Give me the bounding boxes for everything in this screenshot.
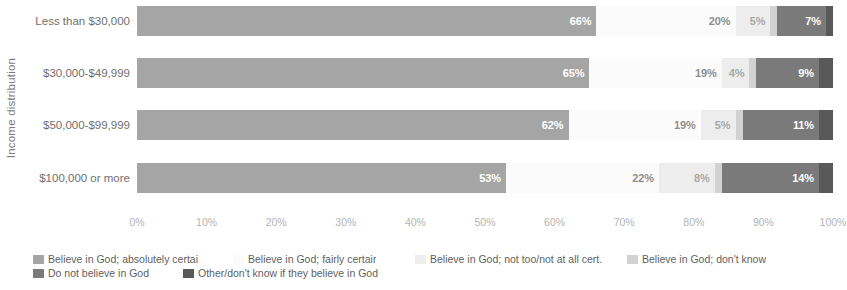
bar-segment-value: 11%: [793, 119, 819, 131]
bar-segment-value: 66%: [570, 15, 597, 27]
bar-segment: 8%: [659, 163, 715, 193]
plot-area: 66%20%5%7%65%19%4%9%62%19%5%11%53%22%8%1…: [137, 0, 833, 210]
legend-swatch-icon: [415, 255, 426, 264]
bar-segment: 53%: [137, 163, 506, 193]
y-axis-tick-labels: Less than $30,000 $30,000-$49,999 $50,00…: [10, 0, 130, 205]
x-axis-tick-label: 90%: [753, 216, 774, 228]
y-axis-tick-label: $30,000-$49,999: [10, 58, 130, 88]
legend-label: Believe in God; don't know: [642, 252, 766, 266]
legend-swatch-icon: [233, 255, 244, 264]
legend-item[interactable]: Believe in God; not too/not at all cert.: [415, 252, 627, 266]
bar-segment: [819, 110, 833, 140]
stacked-bar-chart: Income distribution Less than $30,000 $3…: [0, 0, 847, 290]
bar-segment: 9%: [756, 58, 819, 88]
bar-segment-value: 7%: [805, 15, 826, 27]
bar-segment: [736, 110, 743, 140]
bar-segment-value: 5%: [715, 119, 736, 131]
x-axis-tick-label: 80%: [683, 216, 704, 228]
x-axis-tick-label: 0%: [129, 216, 144, 228]
x-axis-tick-label: 30%: [335, 216, 356, 228]
legend-swatch-icon: [33, 255, 44, 264]
legend-row: Believe in God; absolutely certaiBelieve…: [33, 252, 833, 266]
x-axis-tick-label: 20%: [266, 216, 287, 228]
bar-segment-value: 9%: [798, 67, 819, 79]
x-axis-tick-label: 60%: [544, 216, 565, 228]
bar-segment: 62%: [137, 110, 569, 140]
bar-segment: 65%: [137, 58, 589, 88]
legend-item[interactable]: Believe in God; absolutely certai: [33, 252, 233, 266]
legend-label: Other/don't know if they believe in God: [198, 266, 378, 280]
y-axis-tick-label: $100,000 or more: [10, 163, 130, 193]
bar-rows: 66%20%5%7%65%19%4%9%62%19%5%11%53%22%8%1…: [137, 0, 833, 205]
bar-segment-value: 19%: [695, 67, 722, 79]
bar-segment: [826, 6, 833, 36]
legend-swatch-icon: [33, 269, 44, 278]
bar-segment: 66%: [137, 6, 596, 36]
legend-item[interactable]: Believe in God; don't know: [627, 252, 766, 266]
bar-segment: 11%: [743, 110, 820, 140]
bar-segment-value: 65%: [563, 67, 590, 79]
legend-label: Believe in God; not too/not at all cert.: [430, 252, 602, 266]
bar-segment-value: 5%: [750, 15, 771, 27]
bar-segment: 5%: [701, 110, 736, 140]
legend-label: Do not believe in God: [48, 266, 149, 280]
bar-segment-value: 8%: [694, 172, 715, 184]
bar-segment: 7%: [777, 6, 826, 36]
legend-label: Believe in God; absolutely certai: [48, 252, 198, 266]
bar-segment-value: 14%: [792, 172, 819, 184]
bar-row: 62%19%5%11%: [137, 110, 833, 140]
legend-item[interactable]: Believe in God; fairly certair: [233, 252, 415, 266]
x-axis-tick-label: 100%: [820, 216, 847, 228]
x-axis: 0%10%20%30%40%50%60%70%80%90%100%: [137, 210, 833, 234]
bar-segment: 19%: [569, 110, 701, 140]
bar-segment: 22%: [506, 163, 659, 193]
bar-segment-value: 62%: [542, 119, 569, 131]
x-axis-tick-label: 40%: [405, 216, 426, 228]
bar-segment-value: 53%: [479, 172, 506, 184]
legend-row: Do not believe in GodOther/don't know if…: [33, 266, 833, 280]
bar-segment: [819, 58, 833, 88]
legend-item[interactable]: Do not believe in God: [33, 266, 183, 280]
bar-segment: 14%: [722, 163, 819, 193]
bar-segment: 19%: [589, 58, 721, 88]
bar-row: 65%19%4%9%: [137, 58, 833, 88]
bar-segment-value: 4%: [729, 67, 750, 79]
legend-swatch-icon: [627, 255, 638, 264]
bar-segment-value: 19%: [674, 119, 701, 131]
bar-segment: [715, 163, 722, 193]
bar-row: 66%20%5%7%: [137, 6, 833, 36]
x-axis-tick-label: 50%: [474, 216, 495, 228]
bar-segment: [819, 163, 833, 193]
legend: Believe in God; absolutely certaiBelieve…: [33, 252, 833, 280]
bar-segment: 5%: [736, 6, 771, 36]
bar-segment: [770, 6, 777, 36]
legend-swatch-icon: [183, 269, 194, 278]
x-axis-tick-label: 10%: [196, 216, 217, 228]
y-axis-tick-label: Less than $30,000: [10, 6, 130, 36]
legend-label: Believe in God; fairly certair: [248, 252, 376, 266]
legend-item[interactable]: Other/don't know if they believe in God: [183, 266, 378, 280]
bar-segment: [749, 58, 756, 88]
bar-row: 53%22%8%14%: [137, 163, 833, 193]
bar-segment-value: 22%: [632, 172, 659, 184]
bar-segment-value: 20%: [709, 15, 736, 27]
bar-segment: 4%: [722, 58, 750, 88]
x-axis-tick-label: 70%: [614, 216, 635, 228]
bar-segment: 20%: [596, 6, 735, 36]
y-axis-tick-label: $50,000-$99,999: [10, 110, 130, 140]
